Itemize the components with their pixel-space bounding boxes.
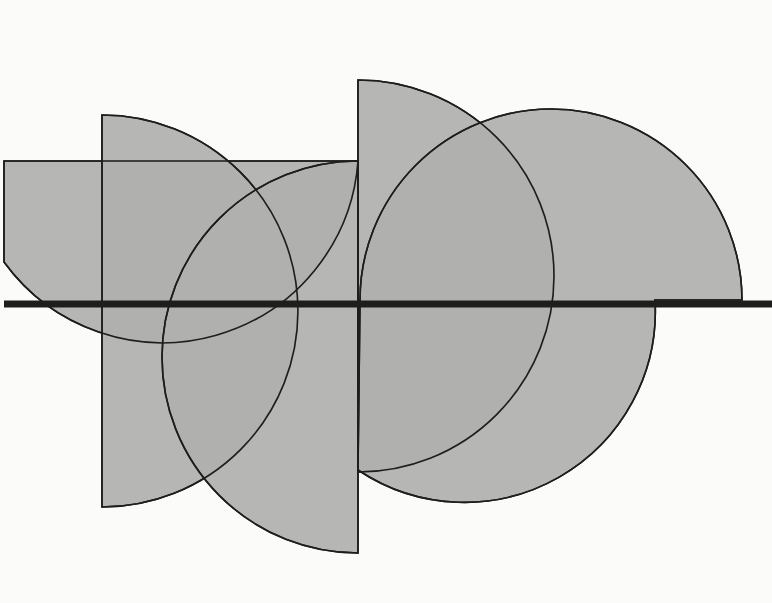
geometric-artwork bbox=[0, 0, 772, 603]
shape-group bbox=[4, 80, 742, 553]
